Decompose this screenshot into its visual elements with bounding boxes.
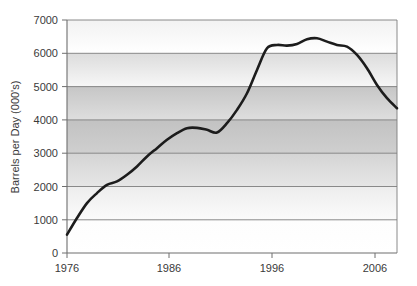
y-axis-tick-labels: 7000 6000 5000 4000 3000 2000 1000 0 [34, 14, 58, 259]
y-tick-label: 3000 [34, 147, 58, 159]
y-tick-label: 4000 [34, 114, 58, 126]
y-tick-label: 7000 [34, 14, 58, 26]
line-chart: 7000 6000 5000 4000 3000 2000 1000 0 197… [0, 0, 417, 286]
chart-container: 7000 6000 5000 4000 3000 2000 1000 0 197… [0, 0, 417, 286]
plot-background [67, 20, 397, 253]
x-tick-label: 1996 [260, 262, 284, 274]
x-tick-label: 1986 [157, 262, 181, 274]
y-tick-label: 1000 [34, 214, 58, 226]
y-tick-label: 5000 [34, 81, 58, 93]
y-tick-label: 2000 [34, 181, 58, 193]
x-axis-ticks [67, 253, 375, 258]
x-tick-label: 2006 [363, 262, 387, 274]
x-axis-tick-labels: 1976 1986 1996 2006 [55, 262, 387, 274]
x-tick-label: 1976 [55, 262, 79, 274]
y-tick-label: 6000 [34, 47, 58, 59]
y-axis-title: Barrels per Day (000's) [9, 81, 21, 194]
y-tick-label: 0 [52, 247, 58, 259]
y-axis-ticks [62, 20, 67, 253]
